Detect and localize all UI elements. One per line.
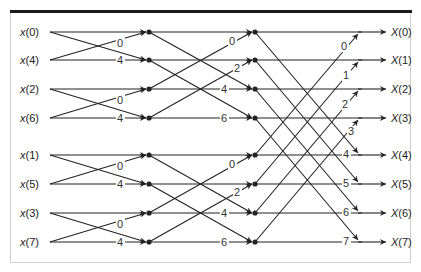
twiddle-label: 6 <box>221 112 227 124</box>
node-dot <box>146 239 151 244</box>
node-dot <box>146 57 151 62</box>
node-dot <box>146 29 151 34</box>
input-label: x(4) <box>19 54 39 66</box>
twiddle-label: 0 <box>117 94 123 106</box>
twiddle-label: 0 <box>117 37 123 49</box>
twiddle-label: 0 <box>229 158 235 170</box>
node-dot <box>146 152 151 157</box>
node-dot <box>146 181 151 186</box>
node-dot <box>252 239 257 244</box>
node-dot <box>252 29 257 34</box>
input-label: x(3) <box>19 207 39 219</box>
twiddle-label: 4 <box>343 148 349 160</box>
twiddle-label: 0 <box>117 218 123 230</box>
input-label: x(5) <box>19 178 39 190</box>
output-label: X(4) <box>390 149 412 161</box>
output-label: X(0) <box>390 26 412 38</box>
twiddle-label: 4 <box>117 178 123 190</box>
twiddle-label: 3 <box>348 125 354 137</box>
twiddle-label: 4 <box>221 83 227 95</box>
input-label: x(7) <box>19 236 39 248</box>
node-dot <box>146 86 151 91</box>
twiddle-label: 4 <box>117 112 123 124</box>
twiddle-label: 4 <box>117 236 123 248</box>
input-label: x(2) <box>19 83 39 95</box>
output-label: X(7) <box>390 236 412 248</box>
twiddle-label: 2 <box>342 98 348 110</box>
twiddle-label: 0 <box>117 160 123 172</box>
twiddle-label: 6 <box>221 236 227 248</box>
node-dot <box>146 210 151 215</box>
input-label: x(6) <box>19 112 39 124</box>
node-dot <box>252 115 257 120</box>
node-dot <box>252 181 257 186</box>
twiddle-label: 0 <box>229 35 235 47</box>
twiddle-label: 0 <box>341 40 347 52</box>
fft-butterfly-diagram: x(0)x(4)x(2)x(6)x(1)x(5)x(3)x(7)X(0)X(1)… <box>0 0 421 272</box>
twiddle-label: 4 <box>221 207 227 219</box>
output-label: X(3) <box>390 112 412 124</box>
output-label: X(2) <box>390 83 412 95</box>
node-dot <box>252 152 257 157</box>
twiddle-label: 5 <box>343 177 349 189</box>
twiddle-label: 6 <box>343 206 349 218</box>
twiddle-label: 2 <box>234 186 240 198</box>
twiddle-label: 7 <box>343 235 349 247</box>
input-label: x(0) <box>19 26 39 38</box>
node-dot <box>252 210 257 215</box>
output-label: X(5) <box>390 178 412 190</box>
input-label: x(1) <box>19 149 39 161</box>
output-label: X(6) <box>390 207 412 219</box>
twiddle-label: 2 <box>234 62 240 74</box>
node-dot <box>146 115 151 120</box>
twiddle-label: 4 <box>117 54 123 66</box>
output-label: X(1) <box>390 54 412 66</box>
twiddle-label: 1 <box>343 69 349 81</box>
node-dot <box>252 57 257 62</box>
node-dot <box>252 86 257 91</box>
